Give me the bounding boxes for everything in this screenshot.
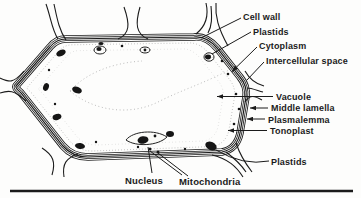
label-middle-lamella: Middle lamella xyxy=(271,103,335,113)
plastids-top-leader xyxy=(212,32,251,54)
cell-wall-leader xyxy=(201,18,241,38)
plant-cell-diagram: Cell wall Plastids Cytoplasm Intercellul… xyxy=(0,0,361,198)
label-cytoplasm: Cytoplasm xyxy=(259,41,306,51)
label-mitochondria: Mitochondria xyxy=(179,176,241,187)
label-tonoplast: Tonoplast xyxy=(270,126,314,136)
label-vacuole: Vacuole xyxy=(276,92,311,102)
label-cell-wall: Cell wall xyxy=(243,12,280,22)
diagram-canvas: Cell wall Plastids Cytoplasm Intercellul… xyxy=(0,0,361,198)
intercellular-space-leader xyxy=(247,62,264,80)
label-plastids-top: Plastids xyxy=(253,27,289,37)
label-nucleus: Nucleus xyxy=(125,175,163,186)
label-plasmalemma: Plasmalemma xyxy=(268,115,331,125)
cytoplasm-arrow xyxy=(232,47,257,72)
label-plastids-bottom: Plastids xyxy=(271,157,307,167)
label-intercellular-space: Intercellular space xyxy=(266,56,348,66)
